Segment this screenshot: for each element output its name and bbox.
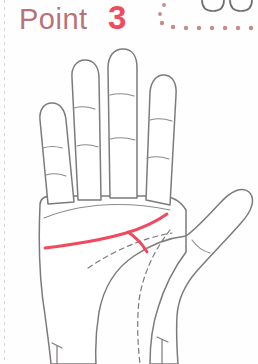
page-root: Point 3 [0, 0, 258, 364]
pinky-finger [40, 103, 74, 204]
index-finger [146, 75, 176, 205]
ring-finger [72, 60, 101, 200]
middle-finger [108, 49, 137, 198]
palm-reading-diagram [0, 0, 258, 364]
